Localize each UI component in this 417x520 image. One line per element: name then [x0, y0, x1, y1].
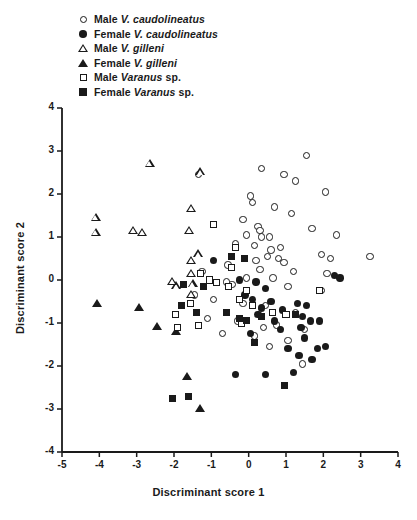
data-point: [269, 309, 276, 316]
x-tick-label: -4: [79, 459, 119, 470]
data-point: [241, 255, 248, 262]
data-point: [267, 298, 274, 305]
y-tick-label: -2: [28, 359, 54, 370]
y-tick-label: -1: [28, 316, 54, 327]
y-tick-label: 3: [28, 144, 54, 155]
data-point: [258, 313, 265, 320]
x-tick-label: -1: [191, 459, 231, 470]
data-point: [236, 315, 243, 322]
data-point: [200, 283, 207, 290]
y-tick-label: 1: [28, 230, 54, 241]
data-point: [186, 204, 196, 212]
data-point: [284, 283, 291, 290]
data-point: [184, 226, 194, 234]
data-point: [258, 233, 265, 240]
data-point: [271, 203, 278, 210]
data-point: [366, 253, 373, 260]
data-point: [195, 404, 205, 412]
y-tick-label: -4: [28, 445, 54, 456]
data-point: [172, 311, 179, 318]
x-tick-label: -2: [154, 459, 194, 470]
x-tick-label: 1: [266, 459, 306, 470]
data-point: [243, 274, 250, 281]
data-point: [195, 322, 202, 329]
data-point: [169, 395, 176, 402]
data-point: [281, 382, 288, 389]
data-point: [316, 317, 323, 324]
data-point: [195, 167, 205, 175]
data-point: [91, 213, 101, 221]
data-point: [92, 299, 102, 307]
data-point: [188, 279, 198, 287]
x-tick-label: 3: [341, 459, 381, 470]
data-point: [269, 274, 276, 281]
data-point: [228, 264, 235, 271]
data-point: [284, 337, 291, 344]
data-point: [145, 159, 155, 167]
data-point: [210, 221, 217, 228]
data-point: [256, 266, 263, 273]
data-point: [210, 296, 217, 303]
data-point: [243, 317, 250, 324]
data-point: [152, 322, 162, 330]
x-tick-label: 2: [303, 459, 343, 470]
data-point: [266, 233, 273, 240]
data-point: [236, 276, 243, 283]
plot-area: -5-4-3-2-10123443210-1-2-3-4: [0, 0, 417, 520]
scatter-plot-figure: Male V. caudolineatusFemale V. caudoline…: [0, 0, 417, 520]
x-tick-label: 4: [378, 459, 417, 470]
data-point: [249, 302, 256, 309]
data-point: [323, 270, 330, 277]
y-tick-label: 2: [28, 187, 54, 198]
data-point: [251, 339, 258, 346]
data-point: [178, 302, 185, 309]
x-axis-title: Discriminant score 1: [0, 486, 417, 498]
data-point: [213, 279, 220, 286]
data-point: [167, 277, 177, 285]
data-point: [299, 360, 306, 367]
data-point: [292, 177, 299, 184]
data-point: [333, 231, 340, 238]
data-point: [186, 269, 196, 277]
data-point: [174, 324, 181, 331]
data-point: [264, 253, 271, 260]
data-point: [318, 251, 325, 258]
y-axis-title: Discriminant score 2: [14, 178, 26, 378]
data-point: [193, 309, 200, 316]
data-point: [243, 287, 250, 294]
data-point: [301, 334, 308, 341]
data-point: [322, 188, 329, 195]
data-point: [292, 311, 299, 318]
data-point: [236, 296, 243, 303]
data-point: [134, 303, 144, 311]
data-point: [316, 287, 323, 294]
data-point: [258, 304, 265, 311]
data-point: [185, 393, 192, 400]
data-point: [228, 253, 235, 260]
x-tick-label: 0: [229, 459, 269, 470]
data-point: [282, 311, 289, 318]
data-point: [308, 225, 315, 232]
y-tick-label: -3: [28, 402, 54, 413]
data-point: [232, 244, 239, 251]
data-point: [91, 228, 101, 236]
data-point: [252, 278, 259, 285]
data-point: [307, 317, 314, 324]
data-point: [225, 283, 232, 290]
data-point: [336, 274, 343, 281]
data-point: [182, 372, 192, 380]
data-point: [197, 270, 204, 277]
data-point: [284, 345, 291, 352]
data-point: [137, 228, 147, 236]
y-tick-label: 4: [28, 101, 54, 112]
data-point: [295, 352, 302, 359]
data-point: [308, 356, 315, 363]
data-point: [271, 317, 278, 324]
data-point: [187, 300, 194, 307]
y-tick-label: 0: [28, 273, 54, 284]
data-point: [223, 309, 230, 316]
data-point: [186, 290, 196, 298]
x-tick-label: -3: [117, 459, 157, 470]
data-point: [297, 324, 304, 331]
data-point: [180, 281, 187, 288]
